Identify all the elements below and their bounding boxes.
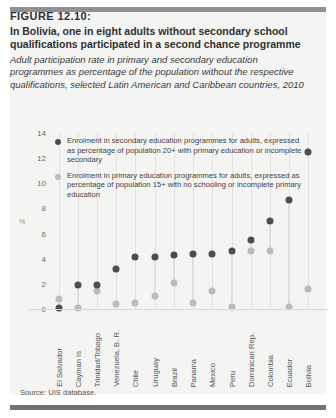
x-axis-tick-label: Dominican Rep. bbox=[247, 333, 256, 387]
data-point-secondary[interactable] bbox=[132, 254, 139, 261]
x-axis-tick-label: Mexico bbox=[208, 363, 217, 387]
data-point-secondary[interactable] bbox=[170, 251, 177, 258]
data-point-secondary[interactable] bbox=[247, 236, 254, 243]
x-axis-tick-label: Trinidad/Tobago bbox=[93, 333, 102, 387]
figure-header: FIGURE 12.10: In Bolivia, one in eight a… bbox=[10, 10, 306, 91]
x-axis-tick-label: Venezuela, B. R. bbox=[112, 330, 121, 387]
data-point-secondary[interactable] bbox=[228, 248, 235, 255]
data-point-primary[interactable] bbox=[247, 248, 254, 255]
y-axis-tick-label: 6 bbox=[42, 229, 46, 238]
figure-card: FIGURE 12.10: In Bolivia, one in eight a… bbox=[0, 0, 336, 418]
figure-title: In Bolivia, one in eight adults without … bbox=[10, 25, 306, 51]
data-point-primary[interactable] bbox=[55, 295, 62, 302]
legend-item-label: Enrolment in secondary education program… bbox=[67, 136, 305, 165]
data-point-primary[interactable] bbox=[170, 279, 177, 286]
data-point-secondary[interactable] bbox=[55, 304, 62, 311]
x-axis-labels: El SalvadorCayman IsTrinidad/TobagoVenez… bbox=[49, 315, 329, 387]
x-axis-tick-label: Panama bbox=[189, 359, 198, 387]
data-point-primary[interactable] bbox=[151, 293, 158, 300]
x-axis-tick-label: El Salvador bbox=[55, 348, 64, 387]
connector-stem bbox=[288, 200, 290, 307]
y-axis-title: % bbox=[19, 218, 25, 225]
x-axis-tick-label: Peru bbox=[228, 371, 237, 387]
connector-stem bbox=[212, 254, 214, 292]
connector-stem bbox=[269, 221, 271, 251]
connector-stem bbox=[116, 269, 118, 304]
legend-item-secondary: Enrolment in secondary education program… bbox=[55, 136, 305, 165]
x-axis-tick-label: Colombia bbox=[266, 355, 275, 387]
connector-stem bbox=[231, 251, 233, 306]
figure-subtitle: Adult participation rate in primary and … bbox=[10, 54, 306, 91]
y-axis-tick-label: 4 bbox=[42, 254, 46, 263]
legend-item-label: Enrolment in primary education programme… bbox=[67, 171, 305, 200]
legend-item-primary: Enrolment in primary education programme… bbox=[55, 171, 305, 200]
connector-stem bbox=[154, 257, 156, 296]
data-point-secondary[interactable] bbox=[113, 265, 120, 272]
data-point-secondary[interactable] bbox=[94, 281, 101, 288]
y-axis-tick-label: 2 bbox=[42, 279, 46, 288]
y-axis-tick-label: 10 bbox=[37, 179, 46, 188]
data-point-secondary[interactable] bbox=[151, 254, 158, 261]
x-axis-tick-label: Ecuador bbox=[285, 359, 294, 387]
connector-stem bbox=[308, 152, 310, 289]
data-point-primary[interactable] bbox=[209, 288, 216, 295]
connector-stem bbox=[192, 254, 194, 303]
data-point-secondary[interactable] bbox=[209, 250, 216, 257]
x-axis-baseline bbox=[29, 309, 328, 310]
data-point-secondary[interactable] bbox=[190, 250, 197, 257]
source-note: Source: UIS database. bbox=[20, 388, 96, 397]
x-axis-tick-label: Cayman Is bbox=[74, 351, 83, 387]
data-point-primary[interactable] bbox=[94, 288, 101, 295]
data-point-primary[interactable] bbox=[190, 299, 197, 306]
data-point-secondary[interactable] bbox=[305, 148, 312, 155]
data-point-primary[interactable] bbox=[132, 299, 139, 306]
bottom-rule bbox=[10, 405, 326, 410]
y-axis-tick-label: 8 bbox=[42, 204, 46, 213]
x-axis-tick-label: Brazil bbox=[170, 368, 179, 387]
data-point-primary[interactable] bbox=[113, 300, 120, 307]
x-axis-tick-label: Chile bbox=[131, 370, 140, 387]
connector-stem bbox=[135, 257, 137, 302]
light-circle-icon bbox=[55, 174, 61, 180]
x-axis-tick-label: Bolivia bbox=[304, 365, 313, 387]
data-point-secondary[interactable] bbox=[266, 218, 273, 225]
y-axis-tick-label: 12 bbox=[37, 154, 46, 163]
chart-legend: Enrolment in secondary education program… bbox=[55, 136, 305, 206]
data-point-primary[interactable] bbox=[266, 248, 273, 255]
y-axis-tick-label: 14 bbox=[37, 129, 46, 138]
data-point-primary[interactable] bbox=[305, 285, 312, 292]
x-axis-tick-label: Uruguay bbox=[151, 358, 160, 387]
figure-number: FIGURE 12.10: bbox=[10, 10, 306, 22]
dark-circle-icon bbox=[55, 139, 61, 145]
data-point-secondary[interactable] bbox=[74, 282, 81, 289]
